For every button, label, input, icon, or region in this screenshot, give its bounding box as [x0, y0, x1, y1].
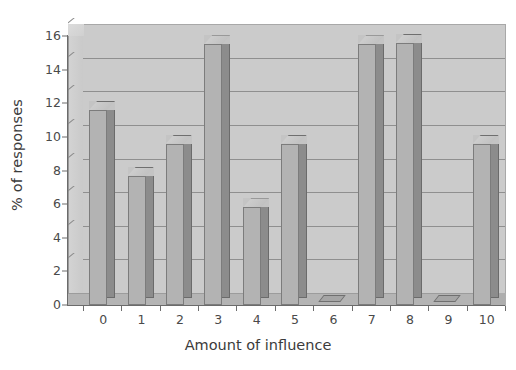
x-axis-tick-mark [236, 306, 237, 311]
x-axis-tick-label: 2 [176, 314, 184, 327]
x-axis-tick-mark [121, 306, 122, 311]
bar-front-face [358, 44, 376, 305]
bar [166, 135, 184, 305]
x-axis-tick-mark [198, 306, 199, 311]
x-axis-title: Amount of influence [0, 337, 516, 353]
x-axis-tick-label: 0 [99, 314, 107, 327]
x-axis-tick-label: 1 [138, 314, 146, 327]
bar-front-face [281, 144, 299, 305]
x-axis-tick-mark [275, 306, 276, 311]
bar-top-face [281, 135, 307, 144]
x-axis-tick-label: 7 [368, 314, 376, 327]
bar-chart: 0246810121416 012345678910 % of response… [0, 0, 516, 370]
x-axis-tick-mark [313, 306, 314, 311]
x-axis-tick-label: 5 [291, 314, 299, 327]
bar [396, 34, 414, 305]
bar-front-face [166, 144, 184, 305]
bar-top-face [358, 35, 384, 44]
x-axis-tick-mark [428, 306, 429, 311]
bar-front-face [204, 44, 222, 305]
bar-top-face [204, 35, 230, 44]
bar-side-face [184, 138, 192, 298]
bar-side-face [376, 38, 384, 298]
x-axis-tick-label: 8 [406, 314, 414, 327]
bar-side-face [146, 170, 154, 298]
x-axis-tick-mark [505, 306, 506, 311]
bar [204, 35, 222, 305]
bar-side-face [414, 37, 422, 298]
bar-front-face [128, 176, 146, 305]
bar-front-face [89, 110, 107, 305]
bar-front-face [243, 207, 261, 305]
bar-top-face [473, 135, 499, 144]
bar-top-face [243, 198, 269, 207]
bar [243, 198, 261, 305]
x-axis-tick-label: 10 [479, 314, 495, 327]
bar-side-face [261, 201, 269, 298]
x-axis-tick-label: 6 [329, 314, 337, 327]
x-axis-tick-label: 3 [214, 314, 222, 327]
x-axis-tick-mark [83, 306, 84, 311]
bar-side-face [299, 138, 307, 298]
bar [281, 135, 299, 305]
bar [128, 167, 146, 305]
bar [358, 35, 376, 305]
bar-front-face [473, 144, 491, 305]
x-axis-tick-label: 4 [253, 314, 261, 327]
x-axis-tick-mark [160, 306, 161, 311]
bar-top-face [396, 34, 422, 43]
bar [89, 101, 107, 305]
bar [433, 295, 460, 302]
bar-side-face [222, 38, 230, 298]
bar-top-face [89, 101, 115, 110]
bar-front-face [396, 43, 414, 305]
bar-side-face [491, 138, 499, 298]
x-axis-line [67, 305, 505, 306]
bar [473, 135, 491, 305]
bar [318, 295, 345, 302]
bar-side-face [107, 104, 115, 298]
x-axis-tick-label: 9 [444, 314, 452, 327]
bar-top-face [128, 167, 154, 176]
y-axis-line [67, 35, 68, 306]
x-axis-tick-mark [467, 306, 468, 311]
x-axis-tick-mark [352, 306, 353, 311]
bar-top-face [166, 135, 192, 144]
x-axis-tick-mark [390, 306, 391, 311]
